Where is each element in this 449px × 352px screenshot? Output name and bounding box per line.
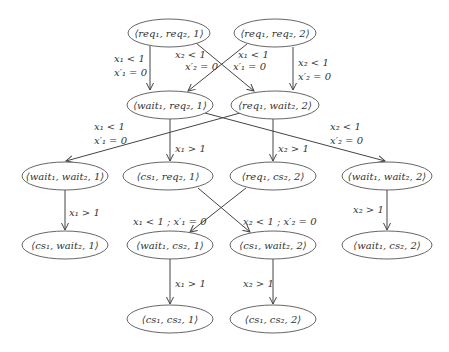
edges bbox=[65, 43, 387, 304]
node-wait1-wait2-1: ⟨wait₁, wait₂, 1⟩ bbox=[22, 162, 108, 190]
node-label: ⟨cs₁, req₂, 1⟩ bbox=[137, 171, 200, 182]
node-req1-req2-1: ⟨req₁, req₂, 1⟩ bbox=[128, 19, 210, 47]
edge-labels: x₁ < 1 x′₁ = 0 x₂ < 1 x′₂ = 0 x₁ < 1 x′₁… bbox=[69, 49, 384, 289]
edge-label-n3-n6: x₁ > 1 bbox=[175, 143, 206, 154]
edge-label-n2-n3-reset: x′₁ = 0 bbox=[233, 61, 267, 72]
node-label: ⟨cs₁, wait₂, 1⟩ bbox=[31, 240, 98, 251]
edge-label-n1-n4-reset: x′₂ = 0 bbox=[185, 61, 219, 72]
edge-label-n4-n7: x₂ > 1 bbox=[278, 143, 309, 154]
node-label: ⟨wait₁, wait₂, 2⟩ bbox=[348, 171, 426, 182]
edge-label-n4-n5-guard: x₁ < 1 bbox=[94, 121, 125, 132]
state-transition-diagram: x₁ < 1 x′₁ = 0 x₂ < 1 x′₂ = 0 x₁ < 1 x′₁… bbox=[0, 0, 449, 352]
node-req1-cs2-2: ⟨req₁, cs₂, 2⟩ bbox=[230, 162, 316, 190]
node-req1-wait2-2: ⟨req₁, wait₂, 2⟩ bbox=[231, 91, 319, 119]
edge-label-n8-n12: x₂ > 1 bbox=[353, 204, 384, 215]
node-wait1-cs2-1: ⟨wait₁, cs₂, 1⟩ bbox=[127, 231, 213, 259]
node-label: ⟨wait₁, cs₂, 2⟩ bbox=[353, 240, 420, 251]
edge-label-n1-n4-guard: x₂ < 1 bbox=[175, 49, 206, 60]
edge-label-n10-n13: x₁ > 1 bbox=[175, 278, 206, 289]
node-cs1-wait2-2: ⟨cs₁, wait₂, 2⟩ bbox=[230, 231, 316, 259]
edge-label-n5-n9: x₁ > 1 bbox=[69, 207, 100, 218]
node-wait1-cs2-2: ⟨wait₁, cs₂, 2⟩ bbox=[342, 231, 432, 259]
node-label: ⟨req₁, cs₂, 2⟩ bbox=[242, 171, 305, 182]
node-label: ⟨wait₁, cs₂, 1⟩ bbox=[136, 240, 203, 251]
edge-n4-n5 bbox=[66, 113, 240, 161]
edge-label-n11-n14: x₂ > 1 bbox=[243, 278, 274, 289]
edge-label-n1-n3-guard: x₁ < 1 bbox=[114, 53, 145, 64]
edge-label-n3-n8-guard: x₂ < 1 bbox=[330, 121, 361, 132]
node-cs1-wait2-1: ⟨cs₁, wait₂, 1⟩ bbox=[22, 231, 108, 259]
edge-label-n6-n11: x₂ < 1 ; x′₂ = 0 bbox=[243, 216, 317, 227]
node-label: ⟨cs₁, wait₂, 2⟩ bbox=[239, 240, 306, 251]
edge-label-n2-n4-reset: x′₂ = 0 bbox=[298, 71, 332, 82]
edge-label-n2-n4-guard: x₂ < 1 bbox=[298, 57, 329, 68]
node-label: ⟨wait₁, req₂, 1⟩ bbox=[133, 100, 207, 111]
edge-label-n7-n10: x₁ < 1 ; x′₁ = 0 bbox=[133, 216, 207, 227]
node-wait1-wait2-2: ⟨wait₁, wait₂, 2⟩ bbox=[342, 162, 432, 190]
node-label: ⟨cs₁, cs₂, 1⟩ bbox=[142, 314, 198, 325]
node-cs1-cs2-1: ⟨cs₁, cs₂, 1⟩ bbox=[127, 305, 213, 333]
node-cs1-req2-1: ⟨cs₁, req₂, 1⟩ bbox=[123, 162, 213, 190]
node-cs1-cs2-2: ⟨cs₁, cs₂, 2⟩ bbox=[230, 305, 316, 333]
edge-label-n2-n3-guard: x₁ < 1 bbox=[238, 49, 269, 60]
node-wait1-req2-1: ⟨wait₁, req₂, 1⟩ bbox=[127, 91, 213, 119]
node-req1-req2-2: ⟨req₁, req₂, 2⟩ bbox=[234, 19, 316, 47]
edge-label-n1-n3-reset: x′₁ = 0 bbox=[114, 67, 148, 78]
edge-label-n3-n8-reset: x′₂ = 0 bbox=[330, 135, 364, 146]
node-label: ⟨req₁, req₂, 1⟩ bbox=[134, 28, 203, 39]
node-label: ⟨req₁, wait₂, 2⟩ bbox=[238, 100, 312, 111]
node-label: ⟨req₁, req₂, 2⟩ bbox=[240, 28, 309, 39]
node-label: ⟨cs₁, cs₂, 2⟩ bbox=[245, 314, 301, 325]
nodes: ⟨req₁, req₂, 1⟩ ⟨req₁, req₂, 2⟩ ⟨wait₁, … bbox=[22, 19, 432, 333]
edge-label-n4-n5-reset: x′₁ = 0 bbox=[94, 135, 128, 146]
node-label: ⟨wait₁, wait₂, 1⟩ bbox=[26, 171, 104, 182]
